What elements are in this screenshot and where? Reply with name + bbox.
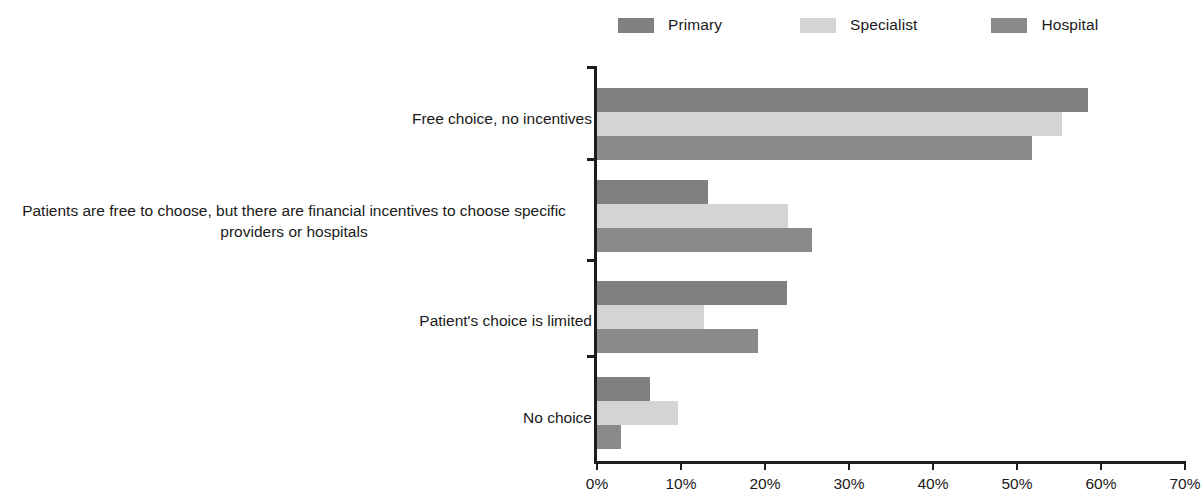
x-axis-tick-30 — [848, 461, 850, 470]
category-separator-tick-2 — [587, 355, 595, 358]
bar-hospital-group-0 — [597, 136, 1032, 160]
x-axis-tick-label-30: 30% — [833, 475, 864, 493]
x-axis-line — [594, 461, 1185, 464]
legend-item-specialist: Specialist — [800, 8, 917, 42]
x-axis-tick-50 — [1016, 461, 1018, 470]
x-axis-tick-label-40: 40% — [917, 475, 948, 493]
x-axis-tick-label-10: 10% — [665, 475, 696, 493]
category-label-financial-incentives: Patients are free to choose, but there a… — [0, 200, 594, 242]
bar-specialist-group-0 — [597, 112, 1062, 136]
legend-label-specialist: Specialist — [850, 16, 917, 34]
category-label-free-choice: Free choice, no incentives — [412, 108, 592, 129]
legend-label-primary: Primary — [668, 16, 722, 34]
x-axis-tick-label-50: 50% — [1001, 475, 1032, 493]
bar-primary-group-1 — [597, 180, 708, 204]
bar-hospital-group-3 — [597, 425, 621, 449]
x-axis-tick-label-60: 60% — [1085, 475, 1116, 493]
bar-specialist-group-2 — [597, 305, 704, 329]
legend-swatch-hospital — [991, 18, 1027, 33]
legend-label-hospital: Hospital — [1041, 16, 1098, 34]
bar-primary-group-2 — [597, 281, 787, 305]
x-axis-tick-40 — [932, 461, 934, 470]
bar-hospital-group-2 — [597, 329, 758, 353]
x-axis-tick-label-70: 70% — [1169, 475, 1200, 493]
x-axis-tick-60 — [1100, 461, 1102, 470]
bar-primary-group-3 — [597, 377, 650, 401]
bar-primary-group-0 — [597, 88, 1088, 112]
bar-specialist-group-1 — [597, 204, 788, 228]
y-axis-top-cap — [587, 66, 595, 69]
chart-legend: Primary Specialist Hospital — [598, 8, 1198, 42]
legend-swatch-primary — [618, 18, 654, 33]
bar-specialist-group-3 — [597, 401, 678, 425]
x-axis-tick-label-20: 20% — [749, 475, 780, 493]
x-axis-tick-20 — [764, 461, 766, 470]
category-label-choice-limited: Patient's choice is limited — [419, 310, 592, 331]
x-axis-tick-10 — [680, 461, 682, 470]
x-axis-tick-label-0: 0% — [586, 475, 608, 493]
bar-chart-plot-area: 0%10%20%30%40%50%60%70% — [597, 66, 1185, 461]
bar-hospital-group-1 — [597, 228, 812, 252]
x-axis-tick-70 — [1184, 461, 1186, 470]
category-label-no-choice: No choice — [523, 407, 592, 428]
category-separator-tick-0 — [587, 158, 595, 161]
legend-item-hospital: Hospital — [991, 8, 1098, 42]
category-separator-tick-1 — [587, 259, 595, 262]
x-axis-tick-0 — [596, 461, 598, 470]
legend-item-primary: Primary — [618, 8, 722, 42]
legend-swatch-specialist — [800, 18, 836, 33]
